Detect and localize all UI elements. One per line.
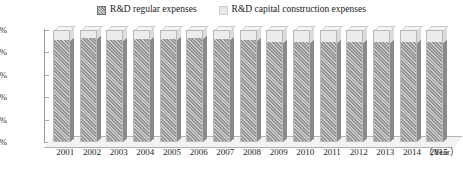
bar-3d-body bbox=[400, 30, 417, 142]
y-axis-tick-label: 0% bbox=[0, 138, 7, 147]
bar-3d-body bbox=[53, 30, 70, 142]
bar-segment-regular-expenses bbox=[374, 42, 389, 141]
bar-segment-regular-expenses bbox=[401, 42, 416, 141]
bar-3d-body bbox=[133, 30, 150, 142]
bar-column bbox=[133, 30, 150, 142]
bar-column bbox=[213, 30, 230, 142]
bar-column bbox=[106, 30, 123, 142]
bar-column bbox=[240, 30, 257, 142]
bar-side-face-regular bbox=[257, 38, 261, 142]
x-axis-tick-label: 2013 bbox=[372, 148, 398, 157]
bar-segment-regular-expenses bbox=[107, 40, 122, 141]
bar-front-face bbox=[293, 30, 310, 142]
bar-column bbox=[160, 30, 177, 142]
bar-3d-body bbox=[293, 30, 310, 142]
bar-3d-body bbox=[106, 30, 123, 142]
x-axis-tick-label: 2002 bbox=[79, 148, 105, 157]
bar-side-face-regular bbox=[417, 40, 421, 142]
bar-side-face-regular bbox=[177, 36, 181, 142]
bar-segment-regular-expenses bbox=[294, 42, 309, 141]
bar-side-face-regular bbox=[203, 35, 207, 142]
legend-item-regular-expenses: R&D regular expenses bbox=[97, 5, 197, 15]
bar-3d-body bbox=[80, 30, 97, 142]
y-axis-tick-label: 20% bbox=[0, 116, 7, 125]
bar-segment-regular-expenses bbox=[321, 42, 336, 141]
bar-side-face-regular bbox=[123, 38, 127, 142]
x-axis-tick-label: 2001 bbox=[52, 148, 78, 157]
bar-series-group bbox=[44, 30, 453, 142]
bar-segment-regular-expenses bbox=[427, 42, 442, 141]
bar-3d-body bbox=[213, 30, 230, 142]
bar-column bbox=[400, 30, 417, 142]
bar-front-face bbox=[346, 30, 363, 142]
bar-side-face-regular bbox=[283, 40, 287, 142]
bar-segment-regular-expenses bbox=[267, 42, 282, 141]
bar-segment-regular-expenses bbox=[214, 39, 229, 141]
bar-column bbox=[426, 30, 443, 142]
bar-side-face-regular bbox=[150, 36, 154, 142]
x-axis-tick-label: 2008 bbox=[239, 148, 265, 157]
legend-swatch-icon-capital bbox=[219, 6, 228, 15]
bar-segment-regular-expenses bbox=[241, 40, 256, 141]
legend-label-capital: R&D capital construction expenses bbox=[232, 5, 366, 15]
bar-front-face bbox=[373, 30, 390, 142]
bar-front-face bbox=[106, 30, 123, 142]
bar-side-face-regular bbox=[390, 40, 394, 142]
bar-column bbox=[266, 30, 283, 142]
x-axis-tick-label: 2015 bbox=[426, 148, 452, 157]
x-axis: （Year） 200120022003200420052006200720082… bbox=[0, 148, 463, 164]
bar-segment-regular-expenses bbox=[54, 40, 69, 141]
y-axis-tick-label: 100% bbox=[0, 26, 7, 35]
bar-front-face bbox=[400, 30, 417, 142]
bar-3d-body bbox=[240, 30, 257, 142]
bar-column bbox=[293, 30, 310, 142]
bar-side-face-regular bbox=[363, 40, 367, 142]
bar-front-face bbox=[266, 30, 283, 142]
x-axis-tick-label: 2006 bbox=[186, 148, 212, 157]
x-axis-tick-label: 2011 bbox=[319, 148, 345, 157]
bar-front-face bbox=[80, 30, 97, 142]
bar-3d-body bbox=[186, 30, 203, 142]
bar-segment-regular-expenses bbox=[347, 42, 362, 141]
legend-item-capital-construction: R&D capital construction expenses bbox=[219, 5, 366, 15]
y-axis-tick-label: 40% bbox=[0, 93, 7, 102]
bar-front-face bbox=[53, 30, 70, 142]
bar-front-face bbox=[426, 30, 443, 142]
bar-front-face bbox=[320, 30, 337, 142]
x-axis-tick-label: 2009 bbox=[266, 148, 292, 157]
bar-side-face-regular bbox=[337, 40, 341, 142]
bar-side-face-regular bbox=[230, 36, 234, 142]
bar-3d-body bbox=[373, 30, 390, 142]
bar-front-face bbox=[133, 30, 150, 142]
bar-side-face-regular bbox=[443, 40, 447, 142]
stacked-bar-chart: R&D regular expenses R&D capital constru… bbox=[0, 0, 463, 175]
bar-side-face-regular bbox=[97, 35, 101, 142]
bar-front-face bbox=[160, 30, 177, 142]
bar-segment-regular-expenses bbox=[161, 39, 176, 141]
bar-front-face bbox=[186, 30, 203, 142]
bar-segment-regular-expenses bbox=[81, 38, 96, 141]
bar-3d-body bbox=[346, 30, 363, 142]
bar-column bbox=[346, 30, 363, 142]
bar-column bbox=[80, 30, 97, 142]
x-axis-tick-label: 2012 bbox=[346, 148, 372, 157]
x-axis-tick-label: 2004 bbox=[132, 148, 158, 157]
bar-front-face bbox=[213, 30, 230, 142]
legend-swatch-icon-regular bbox=[97, 6, 106, 15]
x-axis-tick-label: 2005 bbox=[159, 148, 185, 157]
bar-column bbox=[373, 30, 390, 142]
bar-front-face bbox=[240, 30, 257, 142]
y-axis-tick-label: 60% bbox=[0, 71, 7, 80]
bar-3d-body bbox=[426, 30, 443, 142]
bar-column bbox=[320, 30, 337, 142]
bar-3d-body bbox=[160, 30, 177, 142]
y-axis-tick-label: 80% bbox=[0, 48, 7, 57]
legend-label-regular: R&D regular expenses bbox=[110, 5, 197, 15]
bar-column bbox=[53, 30, 70, 142]
bar-3d-body bbox=[320, 30, 337, 142]
x-axis-tick-label: 2003 bbox=[106, 148, 132, 157]
bar-segment-regular-expenses bbox=[187, 38, 202, 141]
chart-legend: R&D regular expenses R&D capital constru… bbox=[0, 2, 463, 18]
bar-segment-regular-expenses bbox=[134, 39, 149, 141]
bar-side-face-regular bbox=[70, 38, 74, 142]
